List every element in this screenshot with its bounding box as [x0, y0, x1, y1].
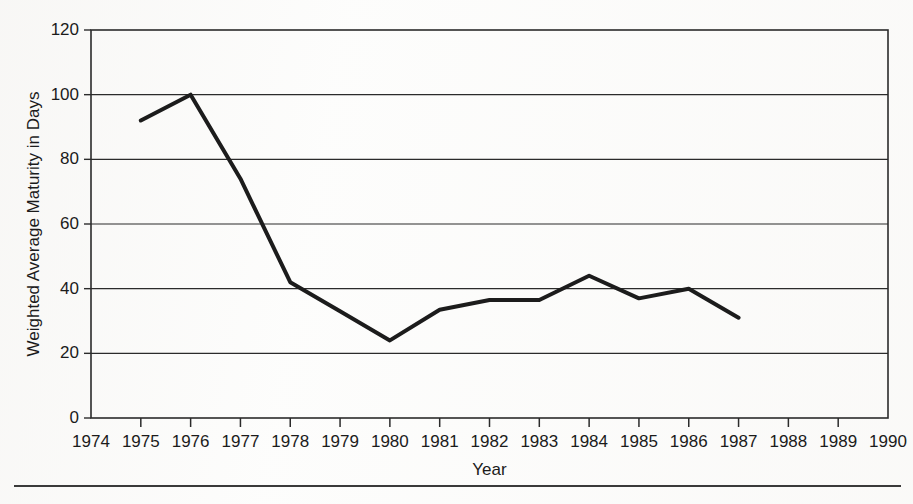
x-tick-label-1974: 1974 [72, 432, 110, 452]
x-axis-tickmarks [141, 418, 838, 427]
x-tick-label-1981: 1981 [421, 432, 459, 452]
y-tick-label-40: 40 [60, 279, 79, 299]
x-tick-label-1975: 1975 [122, 432, 160, 452]
y-tick-label-80: 80 [60, 149, 79, 169]
x-tick-label-1988: 1988 [769, 432, 807, 452]
x-tick-label-1982: 1982 [471, 432, 509, 452]
x-tick-label-1980: 1980 [371, 432, 409, 452]
x-tick-label-1979: 1979 [321, 432, 359, 452]
y-tick-label-0: 0 [70, 408, 79, 428]
x-tick-label-1977: 1977 [222, 432, 260, 452]
x-tick-label-1989: 1989 [819, 432, 857, 452]
plot-svg [0, 0, 913, 504]
data-series-line [141, 95, 739, 341]
y-tick-label-100: 100 [51, 85, 79, 105]
x-tick-label-1978: 1978 [271, 432, 309, 452]
x-tick-label-1986: 1986 [670, 432, 708, 452]
line-chart-figure: Weighted Average Maturity in Days Year 0… [0, 0, 913, 504]
x-tick-label-1987: 1987 [720, 432, 758, 452]
y-tick-label-120: 120 [51, 20, 79, 40]
x-tick-label-1984: 1984 [570, 432, 608, 452]
series-polyline-weighted-average-maturity [141, 95, 739, 341]
y-tick-label-60: 60 [60, 214, 79, 234]
gridlines-group [91, 95, 888, 354]
y-tick-label-20: 20 [60, 343, 79, 363]
x-tick-label-1985: 1985 [620, 432, 658, 452]
x-tick-label-1976: 1976 [172, 432, 210, 452]
chart-page: Weighted Average Maturity in Days Year 0… [0, 0, 913, 504]
x-tick-label-1990: 1990 [869, 432, 907, 452]
x-tick-label-1983: 1983 [520, 432, 558, 452]
